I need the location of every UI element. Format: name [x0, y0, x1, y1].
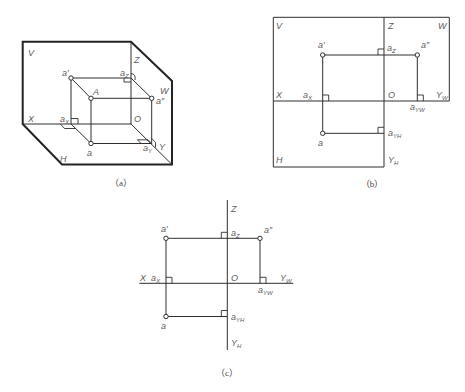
- point-a: [321, 131, 325, 135]
- projection-diagrams: V W H Z X O Y A a′ a″ a aZ aX aY （a）: [0, 0, 465, 392]
- axis-yh-sub: H: [237, 343, 242, 349]
- axis-z-label: Z: [133, 55, 140, 65]
- point-a-double-prime-label: a″: [156, 96, 165, 106]
- origin-o-label: O: [388, 90, 395, 100]
- proj-ax-label: aX: [303, 90, 313, 101]
- proj-az-label: aZ: [120, 68, 129, 79]
- proj-ax-sub: X: [307, 95, 313, 101]
- right-angle-mark-ax: [166, 277, 172, 283]
- right-angle-mark-ax: [71, 119, 78, 125]
- point-a-label: a: [161, 321, 166, 331]
- right-angle-mark-ayh: [221, 311, 227, 317]
- figure-a-caption: （a）: [110, 178, 132, 188]
- proj-ax-sub: X: [155, 278, 161, 284]
- axis-x-label: X: [275, 90, 283, 100]
- point-a-double-prime: [415, 53, 419, 57]
- origin-o-label: O: [134, 114, 141, 124]
- point-a-prime: [164, 236, 168, 240]
- proj-ayh-label: aYH: [231, 312, 245, 323]
- point-a-label: a: [87, 148, 92, 158]
- axis-z-label: Z: [230, 204, 237, 214]
- plane-v-label: V: [28, 48, 35, 58]
- point-a-prime-label: a′: [161, 224, 168, 234]
- proj-az-sub: Z: [124, 73, 129, 79]
- right-angle-mark-az: [378, 49, 384, 55]
- figure-b-unfolded-planes: V W H Z X O YW YH a′ a″ a aZ aX aYW aYH …: [273, 17, 449, 189]
- point-a-prime: [321, 53, 325, 57]
- origin-o-label: O: [231, 273, 238, 283]
- axis-yw-sub: W: [442, 95, 449, 101]
- right-angle-mark-ayw: [260, 277, 266, 283]
- axis-x-label: X: [27, 114, 35, 124]
- projector-ax-a: [71, 124, 91, 144]
- axis-yh-label: YH: [231, 338, 242, 349]
- right-angle-mark-ayh: [378, 127, 384, 133]
- figure-b-caption: （b）: [361, 179, 384, 189]
- point-a-prime: [69, 76, 73, 80]
- proj-az-sub: Z: [391, 48, 396, 54]
- axis-yw-label: YW: [280, 273, 293, 284]
- axis-yh-label: YH: [388, 155, 399, 166]
- proj-az-label: aZ: [387, 43, 396, 54]
- right-angle-mark-az: [124, 78, 131, 82]
- axis-x-label: X: [139, 273, 147, 283]
- figure-a-pictorial: V W H Z X O Y A a′ a″ a aZ aX aY （a）: [23, 42, 172, 188]
- plane-w-label: W: [160, 86, 170, 96]
- projector-aprime-A: [71, 78, 91, 98]
- proj-ax-label: aX: [60, 114, 70, 125]
- proj-ayw-label: aYW: [410, 102, 426, 113]
- point-a-double-prime: [258, 236, 262, 240]
- point-a-prime-label: a′: [62, 68, 69, 78]
- proj-ayw-label: aYW: [258, 285, 274, 296]
- proj-az-label: aZ: [231, 228, 240, 239]
- proj-ayh-sub: YH: [236, 317, 245, 323]
- proj-ayw-sub: YW: [263, 290, 274, 296]
- right-angle-mark-ayw: [417, 95, 423, 101]
- proj-ay-sub: Y: [148, 148, 153, 154]
- figure-c-caption: （c）: [216, 368, 238, 378]
- point-a-double-prime-label: a″: [264, 225, 273, 235]
- proj-az-sub: Z: [235, 233, 240, 239]
- point-a-double-prime-label: a″: [421, 40, 430, 50]
- projector-az-adoubleprime: [131, 78, 152, 98]
- axis-z-label: Z: [387, 21, 394, 31]
- right-angle-mark-az: [221, 232, 227, 238]
- point-a-double-prime: [150, 96, 154, 100]
- axis-y-label: Y: [159, 142, 166, 152]
- point-a: [164, 314, 168, 318]
- plane-h-label: H: [60, 154, 67, 164]
- proj-ayh-label: aYH: [388, 128, 402, 139]
- plane-w-label: W: [438, 21, 448, 31]
- plane-h-label: H: [276, 155, 283, 165]
- axis-yw-label: YW: [436, 90, 449, 101]
- projection-box-outline: [23, 42, 172, 165]
- point-a-prime-label: a′: [318, 40, 325, 50]
- point-a: [89, 141, 93, 145]
- point-a-label: a: [318, 138, 323, 148]
- figure-c-three-view: Z X O YW YH a′ a″ a aZ aX aYW aYH （c）: [139, 200, 293, 378]
- proj-ayh-sub: YH: [393, 133, 402, 139]
- point-A-label: A: [92, 87, 99, 97]
- proj-ax-label: aX: [151, 273, 161, 284]
- plane-v-label: V: [276, 21, 283, 31]
- right-angle-mark-ax: [323, 95, 329, 101]
- axis-yw-sub: W: [286, 278, 293, 284]
- proj-ayw-sub: YW: [415, 107, 426, 113]
- axis-yh-sub: H: [394, 160, 399, 166]
